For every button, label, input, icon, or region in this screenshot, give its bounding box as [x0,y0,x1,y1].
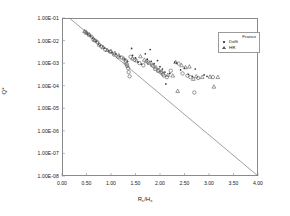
data-point [164,71,166,73]
data-point [216,75,220,78]
data-point [135,59,139,62]
x-axis-tick-label: 0.00 [57,180,67,186]
x-axis-tick-label: 3.50 [229,180,239,186]
y-axis-tick-label: 1.00E-07 [38,150,59,156]
x-axis-tick-label: 2.00 [155,180,165,186]
x-axis-tick-label: 2.50 [180,180,190,186]
data-point [206,75,208,77]
data-point [165,75,168,78]
data-point [127,70,130,73]
data-point [157,60,159,62]
data-point [180,69,182,71]
x-axis-title: Rc/Hs [0,196,290,203]
data-point [176,89,180,92]
y-axis-tick-label: 1.00E-02 [38,38,59,44]
x-axis-tick-labels: 0.000.501.001.502.002.503.003.504.00 [0,180,290,192]
y-axis-tick-label: 1.00E-04 [38,83,59,89]
data-point [194,74,198,77]
series-franco [87,33,208,85]
data-point [144,53,146,55]
data-point [203,74,205,76]
y-axis-tick-label: 1.00E-08 [38,173,59,179]
legend-item-label: HR [229,45,235,50]
y-axis-title: Q* [1,71,7,111]
x-axis-tick-label: 0.50 [82,180,92,186]
x-axis-tick-label: 3.00 [204,180,214,186]
y-axis-tick-label: 1.00E-05 [38,105,59,111]
data-point [159,66,161,68]
data-point [212,85,216,88]
data-point [200,75,204,78]
data-point [194,68,196,70]
x-axis-title-text: Rc/Hs [138,196,153,202]
chart-figure: 1.00E-011.00E-021.00E-031.00E-041.00E-05… [0,0,290,216]
data-point [169,73,171,75]
triangle-icon [221,45,227,50]
dot-icon [221,39,227,44]
data-point [128,75,131,78]
data-point [142,64,145,67]
data-point [171,74,175,77]
data-point [149,49,151,51]
data-point [193,91,196,94]
data-point [189,75,192,78]
x-axis-tick-label: 1.00 [106,180,116,186]
data-point [184,65,188,68]
data-point [165,83,167,85]
x-axis-tick-label: 1.50 [131,180,141,186]
legend-item-label: Delft [229,39,238,44]
y-axis-tick-label: 1.00E-03 [38,60,59,66]
data-point [150,61,152,63]
legend-item-hr[interactable]: HR [221,45,257,51]
y-axis-tick-label: 1.00E-06 [38,128,59,134]
chart-legend: Franco Delft HR [218,32,260,53]
data-point [109,49,113,52]
data-point [131,48,133,50]
x-axis-tick-label: 4.00 [253,180,263,186]
y-axis-tick-label: 1.00E-01 [38,15,59,21]
data-point [169,69,172,72]
data-point [139,54,143,57]
data-point [188,65,192,68]
data-point [181,72,184,75]
